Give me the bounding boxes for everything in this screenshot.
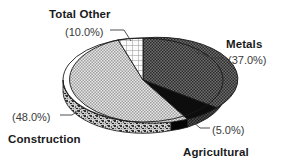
slice-label-construction: Construction	[8, 133, 81, 145]
slice-percent-construction: (48.0%)	[12, 111, 51, 123]
slice-percent-total-other: (10.0%)	[65, 26, 104, 38]
slice-percent-agricultural: (5.0%)	[212, 124, 244, 136]
pie-chart-figure: Total Other (10.0%) Metals (37.0%) Const…	[0, 0, 287, 163]
slice-label-total-other: Total Other	[49, 8, 111, 20]
pie-top-face	[70, 37, 238, 123]
slice-label-agricultural: Agricultural	[183, 146, 249, 158]
slice-percent-metals: (37.0%)	[228, 54, 267, 66]
slice-label-metals: Metals	[226, 38, 262, 50]
